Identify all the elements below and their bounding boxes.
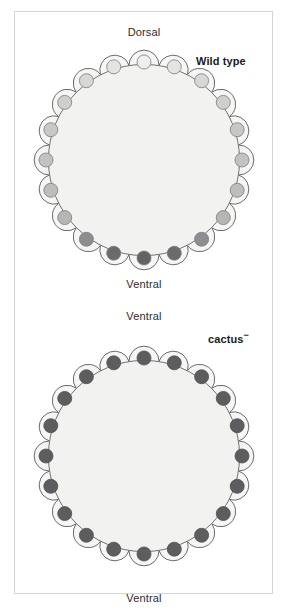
- nucleus: [137, 251, 151, 265]
- nucleus: [44, 419, 58, 433]
- embryo-body-circle: [48, 360, 239, 551]
- nucleus: [137, 55, 151, 69]
- nucleus: [195, 528, 209, 542]
- nucleus: [216, 95, 230, 109]
- axis-label-ventral-cactus-bottom: Ventral: [0, 592, 288, 604]
- nucleus: [58, 211, 72, 225]
- nucleus: [58, 391, 72, 405]
- embryo-cactus-minus: [0, 300, 288, 614]
- nucleus: [107, 542, 121, 556]
- nucleus: [107, 246, 121, 260]
- nucleus: [107, 356, 121, 370]
- panel-wild-type: Dorsal Wild type Ventral: [0, 0, 288, 300]
- nucleus: [167, 542, 181, 556]
- nucleus: [195, 74, 209, 88]
- nucleus: [58, 95, 72, 109]
- nucleus: [58, 507, 72, 521]
- embryo-group: [34, 346, 254, 566]
- nucleus: [44, 123, 58, 137]
- nucleus: [235, 449, 249, 463]
- nucleus: [79, 370, 93, 384]
- embryo-body-circle: [48, 64, 239, 255]
- nucleus: [167, 356, 181, 370]
- nucleus: [195, 370, 209, 384]
- nucleus: [167, 246, 181, 260]
- nucleus: [230, 123, 244, 137]
- nucleus: [39, 153, 53, 167]
- nucleus: [216, 391, 230, 405]
- nucleus: [137, 547, 151, 561]
- nucleus: [230, 183, 244, 197]
- nucleus: [107, 60, 121, 74]
- nucleus: [216, 507, 230, 521]
- nucleus: [167, 60, 181, 74]
- embryo-wild-type: [0, 0, 288, 300]
- nucleus: [79, 74, 93, 88]
- figure-root: Dorsal Wild type Ventral Ventral cactus−…: [0, 0, 288, 614]
- embryo-diagram-wild-type: [0, 0, 288, 300]
- embryo-group: [34, 50, 254, 270]
- nucleus: [230, 419, 244, 433]
- nucleus: [137, 351, 151, 365]
- nucleus: [195, 232, 209, 246]
- nucleus: [44, 183, 58, 197]
- embryo-diagram-cactus-minus: [0, 300, 288, 614]
- nucleus: [44, 479, 58, 493]
- nucleus: [230, 479, 244, 493]
- nucleus: [79, 528, 93, 542]
- axis-label-ventral-wild-type: Ventral: [0, 278, 288, 290]
- nucleus: [235, 153, 249, 167]
- nucleus: [79, 232, 93, 246]
- nucleus: [39, 449, 53, 463]
- nucleus: [216, 211, 230, 225]
